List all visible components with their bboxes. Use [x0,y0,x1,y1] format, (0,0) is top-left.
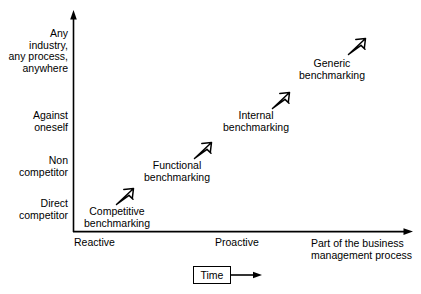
arrow-glyph-functional [195,143,212,159]
item-label-competitive-benchmarking: Competitive benchmarking [82,206,152,229]
time-legend-box: Time [193,266,231,284]
arrow-glyph-generic [349,39,366,55]
x-axis-arrowhead-icon [404,228,414,235]
x-axis-tick-label-reactive: Reactive [74,237,115,249]
x-axis-end-label: Part of the business management process [311,237,421,262]
item-label-functional-benchmarking: Functional benchmarking [139,160,215,183]
y-axis-tick-label-against-oneself: Against oneself [0,110,68,133]
y-axis-arrowhead-icon [70,10,77,20]
y-axis-tick-label-non-competitor: Non competitor [0,155,68,178]
arrow-glyph-competitive [117,189,134,205]
y-axis-tick-label-direct-competitor: Direct competitor [0,198,68,221]
y-axis-tick-label-any-industry: Any industry, any process, anywhere [0,28,68,74]
diagram-canvas: Any industry, any process, anywhere Agai… [0,0,421,294]
item-label-generic-benchmarking: Generic benchmarking [294,58,370,81]
time-arrowhead-icon [253,272,262,278]
item-label-internal-benchmarking: Internal benchmarking [218,110,294,133]
x-axis-tick-label-proactive: Proactive [215,237,259,249]
arrow-glyph-internal [273,93,290,109]
